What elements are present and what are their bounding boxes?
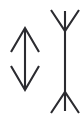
muller-lyer-figure <box>0 0 83 116</box>
